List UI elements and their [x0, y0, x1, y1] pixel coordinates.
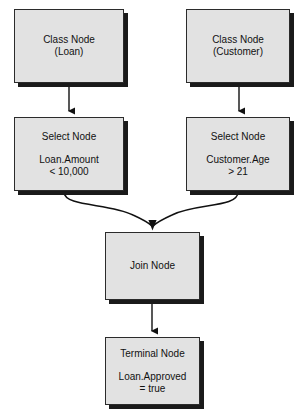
- node-class-customer-detail: (Customer): [213, 46, 263, 58]
- node-class-loan-detail: (Loan): [55, 46, 84, 58]
- node-class-customer[interactable]: Class Node (Customer): [186, 9, 290, 83]
- node-join-title: Join Node: [130, 260, 175, 272]
- node-terminal-field: Loan.Approved: [119, 371, 187, 383]
- diagram-canvas: Class Node (Loan) Class Node (Customer) …: [0, 0, 295, 418]
- edge-select-loan-to-join: [64, 192, 152, 226]
- node-select-loan-field: Loan.Amount: [39, 154, 99, 166]
- node-select-customer-field: Customer.Age: [206, 154, 269, 166]
- node-terminal-title: Terminal Node: [120, 348, 184, 360]
- node-class-customer-title: Class Node: [212, 34, 264, 46]
- node-terminal-test: = true: [140, 383, 166, 395]
- node-select-loan-test: < 10,000: [49, 166, 88, 178]
- node-select-loan[interactable]: Select Node Loan.Amount < 10,000: [14, 117, 124, 191]
- edge-select-customer-to-join: [153, 192, 238, 226]
- node-join[interactable]: Join Node: [105, 232, 200, 300]
- node-class-loan[interactable]: Class Node (Loan): [14, 9, 124, 83]
- node-terminal[interactable]: Terminal Node Loan.Approved = true: [105, 337, 200, 405]
- node-class-loan-title: Class Node: [43, 34, 95, 46]
- node-select-customer[interactable]: Select Node Customer.Age > 21: [186, 117, 290, 191]
- node-select-loan-title: Select Node: [42, 131, 96, 143]
- node-select-customer-title: Select Node: [211, 131, 265, 143]
- join-arrowhead: [148, 220, 156, 231]
- node-select-customer-test: > 21: [228, 166, 248, 178]
